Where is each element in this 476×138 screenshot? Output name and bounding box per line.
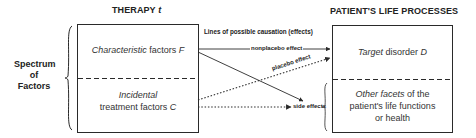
target-italic: Target	[358, 47, 383, 57]
target-text: disorder	[386, 47, 419, 57]
incidental-var: C	[170, 102, 177, 112]
nonplacebo-label: nonplacebo effect	[250, 45, 303, 51]
other-facets-italic: Other facets	[355, 89, 404, 99]
placebo-arrow	[198, 58, 330, 100]
characteristic-factors-text: Characteristic factors F	[78, 44, 198, 56]
side-effects-label: side effects	[292, 103, 327, 109]
other-facets-text-1: of the	[407, 89, 430, 99]
target-disorder-text: Target disorder D	[333, 46, 452, 58]
incidental-factors-text: Incidental treatment factors C	[78, 89, 198, 113]
left-brace-icon	[65, 26, 72, 130]
target-var: D	[421, 47, 428, 57]
characteristic-var: F	[179, 45, 185, 55]
incidental-italic: Incidental	[119, 90, 158, 100]
other-facets-text-3: or health	[333, 112, 452, 124]
other-facets-text: Other facets of the patient's life funct…	[333, 88, 452, 124]
characteristic-italic: Characteristic	[92, 45, 147, 55]
characteristic-text: factors	[149, 45, 176, 55]
incidental-text: treatment factors	[100, 102, 168, 112]
causation-lines-label: Lines of possible causation (effects)	[203, 28, 314, 35]
other-facets-text-2: patient's life functions	[333, 100, 452, 112]
